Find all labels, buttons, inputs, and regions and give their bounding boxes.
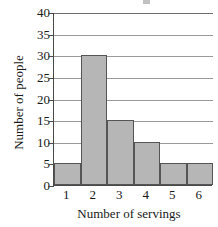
y-tick-label: 25 xyxy=(24,71,50,84)
y-tick-label: 30 xyxy=(24,49,50,62)
bar xyxy=(107,120,134,185)
plot-area xyxy=(53,13,212,186)
y-tick-mark xyxy=(48,56,54,57)
bars-group xyxy=(54,12,213,185)
y-tick-mark xyxy=(48,143,54,144)
y-tick-label: 0 xyxy=(24,179,50,192)
y-tick-mark xyxy=(48,121,54,122)
x-tick-label: 4 xyxy=(133,188,160,202)
x-axis-title: Number of servings xyxy=(40,207,218,221)
x-axis-tick-labels: 123456 xyxy=(53,188,212,204)
y-tick-label: 10 xyxy=(24,136,50,149)
cropped-title-artifact xyxy=(143,0,150,4)
y-tick-mark xyxy=(48,164,54,165)
x-tick-label: 1 xyxy=(53,188,80,202)
x-tick-label: 3 xyxy=(106,188,133,202)
y-tick-mark xyxy=(48,78,54,79)
y-tick-label: 20 xyxy=(24,93,50,106)
x-tick-label: 2 xyxy=(80,188,107,202)
y-tick-label: 5 xyxy=(24,157,50,170)
x-tick-label: 5 xyxy=(159,188,186,202)
y-axis-tick-labels: 4035302520151050 xyxy=(24,13,50,186)
bar xyxy=(134,142,161,185)
y-tick-label: 35 xyxy=(24,28,50,41)
histogram-chart: Number of people 4035302520151050 123456… xyxy=(0,0,218,227)
y-axis-title: Number of people xyxy=(12,23,25,183)
bar xyxy=(160,163,187,185)
y-tick-mark xyxy=(48,100,54,101)
y-tick-mark xyxy=(48,186,54,187)
y-tick-mark xyxy=(48,13,54,14)
y-tick-mark xyxy=(48,35,54,36)
y-tick-label: 40 xyxy=(24,6,50,19)
x-tick-label: 6 xyxy=(186,188,213,202)
bar xyxy=(54,163,81,185)
y-tick-label: 15 xyxy=(24,114,50,127)
bar xyxy=(187,163,214,185)
bar xyxy=(81,55,108,185)
